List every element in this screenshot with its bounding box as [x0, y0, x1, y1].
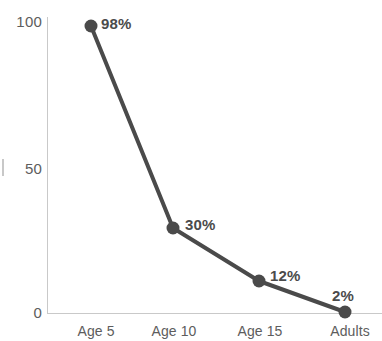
data-point-marker — [85, 20, 98, 33]
data-point-label-30: 30% — [185, 217, 216, 232]
data-series-line — [91, 26, 345, 312]
data-point-markers — [85, 20, 352, 319]
plot-area — [0, 0, 382, 341]
data-point-label-2: 2% — [332, 288, 354, 303]
data-point-marker — [339, 306, 352, 319]
line-chart: 100 50 0 Age 5 Age 10 Age 15 Adults 98% … — [0, 0, 382, 341]
data-point-label-12: 12% — [270, 268, 301, 283]
data-point-marker — [167, 222, 180, 235]
data-point-label-98: 98% — [101, 16, 132, 31]
data-point-marker — [253, 275, 266, 288]
